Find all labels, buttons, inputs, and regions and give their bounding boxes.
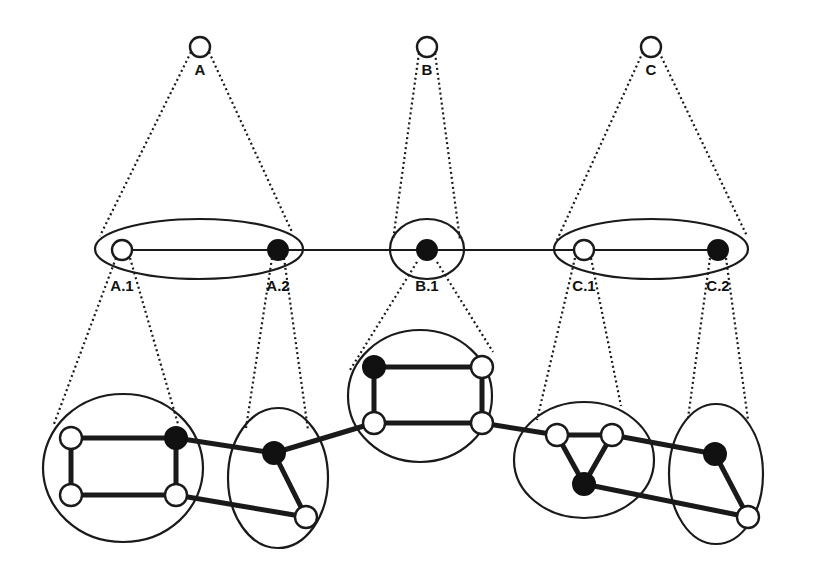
cluster-outline-a-1 [43, 394, 203, 542]
label-a-2: A.2 [266, 277, 289, 294]
subnode-a3 [60, 484, 82, 506]
edge [584, 484, 748, 517]
node-labels: ABCA.1A.2B.1C.1C.2 [110, 61, 729, 294]
edge [176, 438, 274, 453]
cluster-outline-b-1 [348, 330, 492, 462]
projection-line [100, 52, 191, 236]
cluster-outline-a-2 [228, 408, 328, 548]
subnode-d1 [546, 424, 568, 446]
subnode-b2 [295, 506, 317, 528]
projection-line [209, 52, 292, 232]
subnode-c1 [363, 356, 385, 378]
label-c: C [646, 61, 657, 78]
label-a-1: A.1 [110, 277, 133, 294]
subnode-a1 [60, 427, 82, 449]
label-b-1: B.1 [415, 277, 438, 294]
label-b: B [422, 61, 433, 78]
projection-line [435, 53, 460, 240]
projection-line [537, 258, 575, 420]
node-b-1 [417, 240, 437, 260]
node-c-2 [708, 240, 728, 260]
subnode-a2 [165, 427, 187, 449]
projection-line [350, 262, 417, 370]
projection-lines [54, 52, 748, 430]
subnode-c4 [471, 412, 493, 434]
node-a-2 [268, 240, 288, 260]
subnode-e2 [737, 506, 759, 528]
projection-line [393, 53, 419, 240]
label-c-2: C.2 [706, 277, 729, 294]
edge [612, 435, 715, 454]
node-a [190, 37, 210, 57]
subnode-e1 [704, 443, 726, 465]
node-c-1 [574, 240, 594, 260]
subnode-a4 [165, 484, 187, 506]
subnode-b1 [263, 442, 285, 464]
label-a: A [195, 61, 206, 78]
edge [176, 495, 306, 517]
projection-line [659, 52, 747, 236]
label-c-1: C.1 [572, 277, 595, 294]
projection-line [557, 52, 643, 240]
subnode-d2 [601, 424, 623, 446]
projection-line [54, 258, 116, 424]
node-a-1 [112, 240, 132, 260]
subnode-c2 [471, 356, 493, 378]
subnode-c3 [363, 412, 385, 434]
cluster-outline-c-1 [514, 402, 654, 518]
node-c [641, 37, 661, 57]
hierarchical-graph-diagram: ABCA.1A.2B.1C.1C.2 [0, 0, 818, 581]
subnode-d3 [573, 473, 595, 495]
node-b [417, 37, 437, 57]
